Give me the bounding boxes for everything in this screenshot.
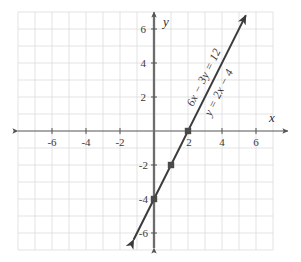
y-axis-name-label: y: [161, 14, 169, 29]
y-tick-label-neg6: -6: [139, 227, 149, 239]
y-tick-label-neg2: -2: [139, 159, 148, 171]
x-tick-label-6: 6: [253, 136, 259, 148]
y-tick-label-6: 6: [141, 23, 147, 35]
x-tick-label-2: 2: [186, 136, 192, 148]
data-point-2-0: [185, 128, 191, 134]
x-axis-name-label: x: [268, 110, 275, 125]
data-point-0-neg4: [151, 196, 157, 202]
data-point-1-neg2: [168, 162, 174, 168]
y-tick-label-2: 2: [141, 91, 147, 103]
y-tick-label-neg4: -4: [139, 193, 149, 205]
coordinate-plane-figure: -6 -4 -2 2 4 6 6 4 2 -2 -4 -6 x y 6x − 3…: [0, 0, 301, 262]
x-tick-label-4: 4: [219, 136, 225, 148]
x-tick-label-neg2: -2: [115, 136, 124, 148]
x-tick-label-neg6: -6: [47, 136, 57, 148]
y-tick-label-4: 4: [141, 57, 147, 69]
graph-svg: -6 -4 -2 2 4 6 6 4 2 -2 -4 -6 x y 6x − 3…: [0, 0, 301, 262]
x-tick-label-neg4: -4: [81, 136, 91, 148]
